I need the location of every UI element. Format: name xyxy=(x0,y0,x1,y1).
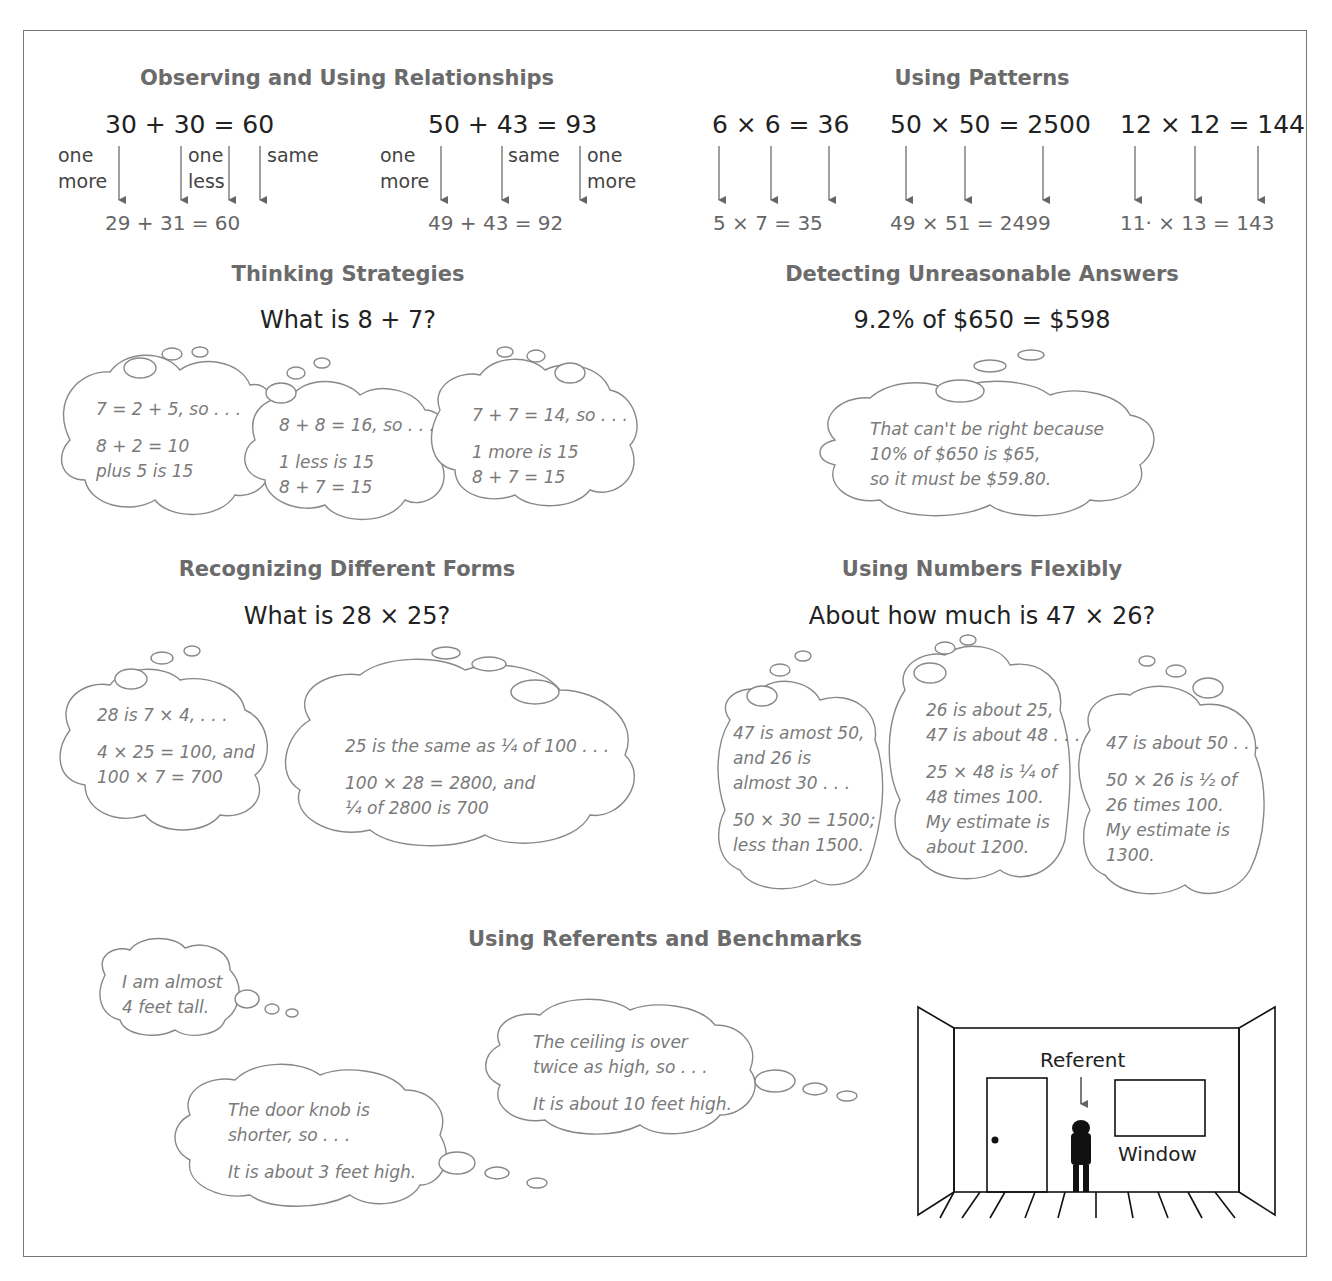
pattern-bottom: 5 × 7 = 35 xyxy=(713,211,823,235)
pattern-top: 6 × 6 = 36 xyxy=(712,110,849,139)
label-same: same xyxy=(508,142,560,168)
label-same: same xyxy=(267,142,319,168)
thought-bubble-text: 28 is 7 × 4, . . . 4 × 25 = 100, and 100… xyxy=(97,703,255,790)
heading-thinking: Thinking Strategies xyxy=(232,262,465,286)
equation-bottom: 49 + 43 = 92 xyxy=(428,211,563,235)
question-unreasonable: 9.2% of $650 = $598 xyxy=(854,306,1111,334)
door xyxy=(987,1078,1047,1192)
heading-flexibly: Using Numbers Flexibly xyxy=(842,557,1122,581)
question-forms: What is 28 × 25? xyxy=(244,602,451,630)
door-knob xyxy=(992,1137,999,1144)
thought-bubble-text: 8 + 8 = 16, so . . . 1 less is 15 8 + 7 … xyxy=(279,413,435,500)
label-one-more: one more xyxy=(58,142,107,194)
pattern-top: 50 × 50 = 2500 xyxy=(890,110,1091,139)
equation-bottom: 29 + 31 = 60 xyxy=(105,211,240,235)
referent-label: Referent xyxy=(1040,1048,1125,1072)
thought-bubble-text: The door knob is shorter, so . . . It is… xyxy=(228,1098,416,1185)
child-figure xyxy=(1071,1120,1091,1192)
pattern-top: 12 × 12 = 144 xyxy=(1120,110,1305,139)
thought-bubble-text: The ceiling is over twice as high, so . … xyxy=(533,1030,732,1117)
label-one-more: one more xyxy=(587,142,636,194)
equation-top: 30 + 30 = 60 xyxy=(105,110,274,139)
heading-relationships: Observing and Using Relationships xyxy=(140,66,554,90)
thought-bubble-text: I am almost 4 feet tall. xyxy=(122,970,222,1020)
question-thinking: What is 8 + 7? xyxy=(260,306,436,334)
thought-bubble-text: 7 = 2 + 5, so . . . 8 + 2 = 10 plus 5 is… xyxy=(96,397,241,484)
label-one-less: one less xyxy=(188,142,225,194)
thought-bubble-text: 7 + 7 = 14, so . . . 1 more is 15 8 + 7 … xyxy=(472,403,628,490)
heading-referents: Using Referents and Benchmarks xyxy=(468,927,862,951)
thought-bubble-text: 26 is about 25, 47 is about 48 . . . 25 … xyxy=(926,698,1081,860)
equation-top: 50 + 43 = 93 xyxy=(428,110,597,139)
pattern-bottom: 11· × 13 = 143 xyxy=(1120,211,1274,235)
window xyxy=(1115,1080,1205,1136)
window-label: Window xyxy=(1118,1142,1197,1166)
room-illustration xyxy=(918,1007,1275,1218)
thought-bubble-text: 25 is the same as ¼ of 100 . . . 100 × 2… xyxy=(345,734,609,821)
thought-bubble-text: 47 is amost 50, and 26 is almost 30 . . … xyxy=(733,721,875,858)
question-flexibly: About how much is 47 × 26? xyxy=(809,602,1155,630)
pattern-arrows xyxy=(719,146,1258,200)
pattern-bottom: 49 × 51 = 2499 xyxy=(890,211,1051,235)
heading-patterns: Using Patterns xyxy=(894,66,1069,90)
heading-unreasonable: Detecting Unreasonable Answers xyxy=(785,262,1179,286)
thought-bubble-text: That can't be right because 10% of $650 … xyxy=(870,417,1104,492)
heading-forms: Recognizing Different Forms xyxy=(179,557,516,581)
thought-bubble-text: 47 is about 50 . . . 50 × 26 is ½ of 26 … xyxy=(1106,731,1261,868)
label-one-more: one more xyxy=(380,142,429,194)
